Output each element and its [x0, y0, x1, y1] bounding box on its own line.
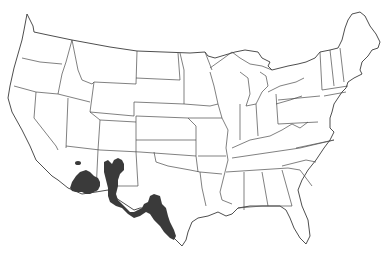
us-outline	[8, 12, 380, 246]
range-az-outlier	[75, 161, 81, 165]
map-svg	[0, 0, 392, 259]
us-range-map	[0, 0, 392, 259]
